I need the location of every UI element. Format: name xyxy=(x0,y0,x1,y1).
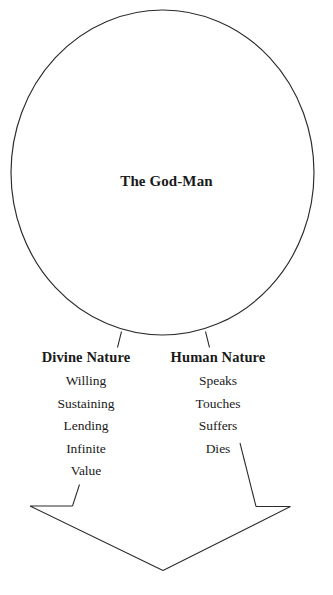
god-man-diagram: The God-Man Divine Nature Willing Sustai… xyxy=(0,0,333,595)
circle-outline xyxy=(11,10,314,335)
connector-tick-left-icon xyxy=(118,332,122,348)
arrow-head-right xyxy=(163,507,291,571)
connector-tick-right-icon xyxy=(206,332,210,348)
arrow-head-left xyxy=(30,506,163,571)
arrow-stem-left xyxy=(73,485,80,507)
arrow-stem-right xyxy=(240,443,256,507)
diagram-canvas xyxy=(0,0,333,595)
